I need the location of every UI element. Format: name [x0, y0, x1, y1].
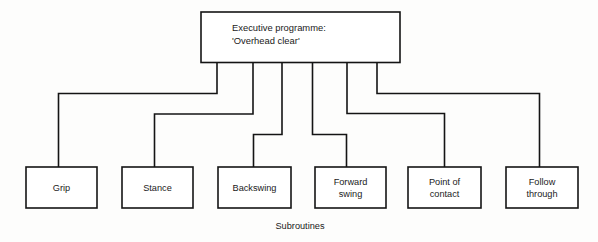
subroutine-label-stance: Stance [143, 183, 172, 193]
connector-to-stance [155, 63, 254, 168]
connector-to-forward-swing [313, 63, 347, 168]
connector-group [59, 63, 540, 168]
flow-chart-diagram: Executive programme: 'Overhead clear' Gr… [0, 0, 598, 242]
subroutine-node-stance[interactable]: Stance [122, 167, 193, 208]
subroutine-node-point-of-contact[interactable]: Point of contact [408, 167, 481, 208]
subroutine-label-follow-through: Follow [529, 177, 556, 187]
subroutine-label-point-of-contact-line2: contact [430, 189, 460, 199]
root-node[interactable]: Executive programme: 'Overhead clear' [201, 12, 400, 63]
subroutine-node-grip[interactable]: Grip [26, 167, 97, 208]
subroutine-box-point-of-contact [408, 167, 481, 208]
diagram-canvas: Executive programme: 'Overhead clear' Gr… [0, 0, 598, 242]
root-node-label-line2: 'Overhead clear' [232, 35, 300, 46]
diagram-caption: Subroutines [275, 221, 324, 231]
subroutine-box-follow-through [506, 167, 578, 208]
connector-to-follow-through [377, 63, 540, 168]
root-node-label-line1: Executive programme: [232, 22, 326, 33]
subroutine-label-grip: Grip [53, 183, 70, 193]
subroutine-node-follow-through[interactable]: Follow through [506, 167, 578, 208]
subroutine-node-backswing[interactable]: Backswing [218, 167, 291, 208]
subroutine-label-point-of-contact: Point of [429, 177, 461, 187]
root-node-box [201, 12, 400, 63]
subroutine-label-forward-swing: Forward [334, 177, 368, 187]
subroutine-label-backswing: Backswing [233, 183, 277, 193]
subroutine-label-forward-swing-line2: swing [339, 189, 363, 199]
subroutine-label-follow-through-line2: through [526, 189, 557, 199]
subroutine-node-forward-swing[interactable]: Forward swing [315, 167, 386, 208]
connector-to-backswing [254, 63, 283, 168]
connector-to-point-of-contact [347, 63, 445, 168]
subroutine-box-forward-swing [315, 167, 386, 208]
